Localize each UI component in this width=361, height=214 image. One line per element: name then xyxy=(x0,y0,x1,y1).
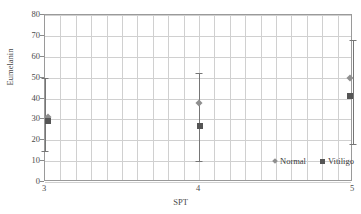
error-bar-cap xyxy=(350,40,357,41)
chart-legend: Normal Vitiligo xyxy=(273,157,354,166)
y-tick-label: 40 xyxy=(0,93,40,102)
chart-figure: Eumelanin 01020304050607080 Normal Vitil… xyxy=(0,0,361,214)
square-marker-icon xyxy=(320,159,325,164)
x-tick-label: 3 xyxy=(29,184,59,193)
plot-area: Normal Vitiligo xyxy=(44,14,352,181)
y-tick-label: 20 xyxy=(0,135,40,144)
diamond-marker-icon xyxy=(272,158,278,164)
legend-entry-vitiligo: Vitiligo xyxy=(320,157,354,166)
data-point-vitiligo xyxy=(197,123,203,129)
gridline-vertical xyxy=(137,15,138,180)
gridline-vertical xyxy=(307,15,308,180)
y-tick-mark xyxy=(40,181,44,182)
error-bar-cap xyxy=(42,151,49,152)
y-tick-label: 80 xyxy=(0,10,40,19)
gridline-vertical xyxy=(322,15,323,180)
legend-entry-normal: Normal xyxy=(273,157,306,166)
error-bar xyxy=(353,40,354,144)
gridline-vertical xyxy=(184,15,185,180)
x-tick-label: 4 xyxy=(183,184,213,193)
y-tick-label: 30 xyxy=(0,114,40,123)
gridline-vertical xyxy=(261,15,262,180)
data-point-vitiligo xyxy=(45,118,51,124)
data-point-vitiligo xyxy=(347,93,353,99)
gridline-vertical xyxy=(153,15,154,180)
legend-label-normal: Normal xyxy=(280,157,306,166)
error-bar-cap xyxy=(196,161,203,162)
gridline-vertical xyxy=(76,15,77,180)
gridline-vertical xyxy=(214,15,215,180)
error-bar-cap xyxy=(42,78,49,79)
error-bar xyxy=(199,73,200,161)
data-point-normal xyxy=(195,99,202,106)
gridline-vertical xyxy=(91,15,92,180)
y-tick-label: 10 xyxy=(0,156,40,165)
legend-label-vitiligo: Vitiligo xyxy=(328,157,354,166)
x-tick-label: 5 xyxy=(337,184,361,193)
y-tick-label: 60 xyxy=(0,52,40,61)
x-axis-label: SPT xyxy=(0,197,361,207)
y-tick-label: 70 xyxy=(0,31,40,40)
gridline-vertical xyxy=(230,15,231,180)
gridline-vertical xyxy=(107,15,108,180)
error-bar-cap xyxy=(350,144,357,145)
gridline-vertical xyxy=(60,15,61,180)
gridline-vertical xyxy=(276,15,277,180)
error-bar-cap xyxy=(196,73,203,74)
gridline-vertical xyxy=(168,15,169,180)
gridline-vertical xyxy=(122,15,123,180)
gridline-vertical xyxy=(245,15,246,180)
y-tick-label: 50 xyxy=(0,72,40,81)
